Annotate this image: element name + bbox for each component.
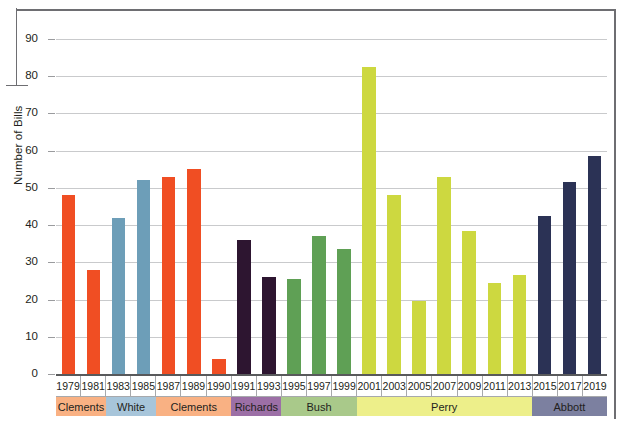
y-tick-mark <box>48 337 55 338</box>
bar-1995 <box>287 279 301 374</box>
x-axis-year-row: 1979198119831985198719891990199119931995… <box>56 375 607 396</box>
governor-band-perry: Perry <box>357 397 532 416</box>
y-tick-label: 30 <box>8 256 38 268</box>
y-tick-label: 80 <box>8 70 38 82</box>
y-tick-label: 60 <box>8 145 38 157</box>
year-cell-1999: 1999 <box>332 376 357 396</box>
bar-2003 <box>387 195 401 374</box>
bar-2007 <box>437 177 451 374</box>
y-tick-mark <box>48 39 55 40</box>
governor-band-clements: Clements <box>56 397 106 416</box>
y-tick-mark <box>48 113 55 114</box>
plot-area: 0102030405060708090 <box>56 39 607 374</box>
y-tick-mark <box>48 76 55 77</box>
y-tick-label: 10 <box>8 331 38 343</box>
governor-band-bush: Bush <box>281 397 356 416</box>
year-cell-1989: 1989 <box>181 376 206 396</box>
year-cell-2017: 2017 <box>558 376 583 396</box>
year-cell-1979: 1979 <box>56 376 81 396</box>
year-cell-2011: 2011 <box>483 376 508 396</box>
y-tick-mark <box>48 300 55 301</box>
year-cell-2009: 2009 <box>458 376 483 396</box>
year-cell-1985: 1985 <box>131 376 156 396</box>
bar-1997 <box>312 236 326 374</box>
bar-1985 <box>137 180 151 374</box>
governor-band-white: White <box>106 397 156 416</box>
bar-2011 <box>488 283 502 374</box>
governor-band-abbott: Abbott <box>532 397 607 416</box>
bar-1981 <box>87 270 101 374</box>
bar-1999 <box>337 249 351 374</box>
bar-2009 <box>462 231 476 374</box>
y-tick-label: 40 <box>8 219 38 231</box>
bar-1987 <box>162 177 176 374</box>
year-cell-1995: 1995 <box>282 376 307 396</box>
bar-2017 <box>563 182 577 374</box>
bar-1990 <box>212 359 226 374</box>
year-cell-2015: 2015 <box>533 376 558 396</box>
y-tick-label: 90 <box>8 33 38 45</box>
y-tick-label: 0 <box>8 368 38 380</box>
year-cell-2001: 2001 <box>357 376 382 396</box>
y-tick-mark <box>48 374 55 375</box>
governor-band-clements: Clements <box>156 397 231 416</box>
bar-1991 <box>237 240 251 374</box>
year-cell-2005: 2005 <box>407 376 432 396</box>
bar-2019 <box>588 156 602 374</box>
bar-1993 <box>262 277 276 374</box>
y-tick-mark <box>48 225 55 226</box>
year-cell-1987: 1987 <box>156 376 181 396</box>
year-cell-2013: 2013 <box>508 376 533 396</box>
y-tick-label: 20 <box>8 294 38 306</box>
bar-1983 <box>112 218 126 374</box>
y-tick-label: 70 <box>8 107 38 119</box>
year-cell-2019: 2019 <box>583 376 607 396</box>
y-tick-mark <box>48 262 55 263</box>
bars-group <box>56 39 607 374</box>
y-tick-label: 50 <box>8 182 38 194</box>
year-cell-1993: 1993 <box>257 376 282 396</box>
bar-2013 <box>513 275 527 374</box>
year-cell-1990: 1990 <box>207 376 232 396</box>
bar-2001 <box>362 67 376 374</box>
year-cell-1997: 1997 <box>307 376 332 396</box>
bar-1979 <box>62 195 76 374</box>
bar-2015 <box>538 216 552 374</box>
bar-1989 <box>187 169 201 374</box>
governor-band-row: ClementsWhiteClementsRichardsBushPerryAb… <box>56 397 607 416</box>
year-cell-1981: 1981 <box>81 376 106 396</box>
y-tick-mark <box>48 151 55 152</box>
year-cell-2007: 2007 <box>432 376 457 396</box>
bar-chart: Number of Bills 0102030405060708090 1979… <box>0 0 624 429</box>
year-cell-1983: 1983 <box>106 376 131 396</box>
bar-2005 <box>412 301 426 374</box>
year-cell-2003: 2003 <box>382 376 407 396</box>
governor-band-richards: Richards <box>231 397 281 416</box>
year-cell-1991: 1991 <box>232 376 257 396</box>
y-tick-mark <box>48 188 55 189</box>
